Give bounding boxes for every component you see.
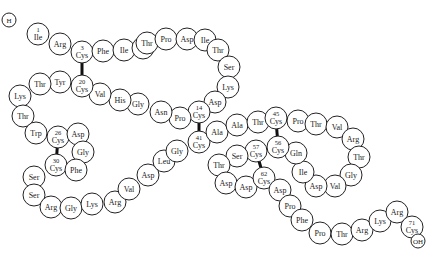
residue-number: 71 (409, 219, 416, 226)
residue-cys-56: 56Cys (267, 136, 289, 158)
residue-gly: Gly (60, 197, 82, 219)
residue-number: 41 (196, 134, 203, 141)
residue-label: Arg (45, 203, 57, 212)
residue-label: Cys (193, 111, 205, 120)
residue-label: Thr (310, 120, 322, 129)
residue-label: Pro (292, 117, 303, 126)
residue-his: His (109, 89, 131, 111)
residue-label: His (114, 96, 125, 105)
residue-label: Thr (336, 230, 348, 239)
residue-label: Arg (54, 40, 66, 49)
residue-thr: Thr (136, 32, 158, 54)
residue-circles: H1IleArg3CysPheIleThrThrProAspIleThrSerL… (2, 13, 425, 248)
residue-label: Asp (142, 171, 155, 180)
residue-label: Tyr (55, 78, 66, 87)
residue-label: Ile (299, 168, 308, 177)
residue-label: Phe (296, 216, 308, 225)
residue-number: 57 (253, 143, 260, 150)
residue-label: Lys (86, 200, 98, 209)
residue-label: Ser (29, 173, 40, 182)
residue-ala: Ala (206, 121, 228, 143)
residue-label: Ala (211, 128, 223, 137)
residue-label: Thr (34, 80, 46, 89)
residue-label: Gly (171, 147, 183, 156)
residue-label: Asp (274, 186, 287, 195)
residue-label: Gly (77, 148, 89, 157)
residue-label: Lys (222, 83, 234, 92)
residue-label: Gly (345, 171, 357, 180)
residue-tyr: Tyr (49, 71, 71, 93)
residue-label: Asp (209, 98, 222, 107)
residue-label: Ser (224, 63, 235, 72)
residue-cys-30: 30Cys (45, 154, 67, 176)
residue-cys-3: 3Cys (71, 41, 93, 63)
residue-label: Lys (14, 92, 26, 101)
residue-label: Pro (160, 35, 171, 44)
residue-label: Thr (141, 39, 153, 48)
residue-number: 3 (80, 44, 83, 51)
residue-label: Ile (120, 46, 129, 55)
residue-label: Cys (270, 117, 282, 126)
residue-label: Asp (310, 182, 323, 191)
residue-label: Val (124, 185, 135, 194)
residue-label: Cys (250, 150, 262, 159)
residue-label: Pro (174, 114, 185, 123)
residue-val: Val (118, 178, 140, 200)
residue-label: Ser (232, 152, 243, 161)
residue-number: 20 (79, 78, 86, 85)
residue-label: Cys (76, 85, 88, 94)
residue-cys-26: 26Cys (47, 126, 69, 148)
residue-number: 45 (273, 110, 280, 117)
residue-label: Phe (97, 47, 109, 56)
residue-asp: Asp (215, 172, 237, 194)
residue-label: Pro (284, 202, 295, 211)
residue-label: Cys (50, 164, 62, 173)
residue-number: 30 (53, 157, 60, 164)
residue-lys: Lys (9, 85, 31, 107)
residue-arg: Arg (49, 33, 71, 55)
residue-label: Asn (155, 108, 168, 117)
residue-label: Cys (52, 136, 64, 145)
residue-label: Ile (34, 33, 43, 42)
residue-gly: Gly (166, 140, 188, 162)
residue-label: Phe (70, 166, 82, 175)
residue-ala: Ala (226, 114, 248, 136)
residue-asn: Asn (150, 101, 172, 123)
residue-label: Cys (406, 226, 418, 235)
residue-label: Arg (391, 208, 403, 217)
residue-label: Pro (314, 229, 325, 238)
residue-label: Asp (72, 130, 85, 139)
residue-label: Thr (213, 161, 225, 170)
protein-sequence-diagram: H1IleArg3CysPheIleThrThrProAspIleThrSerL… (0, 0, 442, 255)
residue-label: Asp (181, 35, 194, 44)
residue-ile-1: 1Ile (27, 23, 49, 45)
residue-label: Ala (231, 121, 243, 130)
residue-label: Gly (132, 100, 144, 109)
residue-oh: OH (411, 234, 425, 248)
residue-phe: Phe (291, 209, 313, 231)
residue-label: Gly (65, 204, 77, 213)
residue-label: Thr (353, 153, 365, 162)
residue-lys: Lys (81, 193, 103, 215)
residue-number: 56 (275, 139, 282, 146)
residue-label: Thr (212, 46, 224, 55)
residue-label: H (6, 17, 11, 25)
residue-h: H (2, 13, 16, 27)
residue-pro: Pro (155, 28, 177, 50)
residue-label: Val (95, 90, 106, 99)
residue-number: 62 (261, 170, 268, 177)
residue-pro: Pro (309, 222, 331, 244)
residue-cys-45: 45Cys (265, 107, 287, 129)
residue-label: Val (330, 182, 341, 191)
residue-trp: Trp (25, 122, 47, 144)
residue-thr: Thr (305, 113, 327, 135)
residue-label: Gln (290, 149, 302, 158)
residue-number: 1 (36, 26, 39, 33)
residue-label: Ile (201, 36, 210, 45)
residue-label: Trp (30, 129, 41, 138)
residue-label: Arg (109, 198, 121, 207)
residue-label: Arg (356, 226, 368, 235)
residue-label: Val (332, 123, 343, 132)
residue-arg: Arg (40, 196, 62, 218)
residue-label: Lys (374, 217, 386, 226)
